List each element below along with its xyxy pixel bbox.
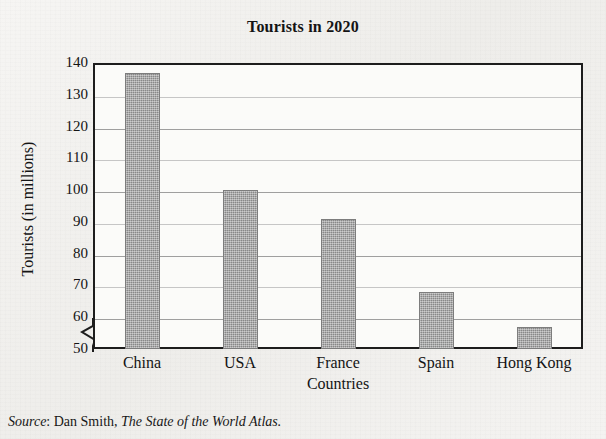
gridline-120 xyxy=(95,129,581,130)
gridline-60 xyxy=(95,319,581,320)
x-tick-label-hong-kong: Hong Kong xyxy=(485,354,583,372)
source-note: Source: Dan Smith, The State of the Worl… xyxy=(8,414,281,430)
y-tick-label-80: 80 xyxy=(52,246,88,261)
y-tick-label-110: 110 xyxy=(52,150,88,165)
gridline-130 xyxy=(95,97,581,98)
y-tick-label-70: 70 xyxy=(52,277,88,292)
gridline-70 xyxy=(95,287,581,288)
y-tick-label-140: 140 xyxy=(52,55,88,70)
x-axis-title: Countries xyxy=(93,375,583,393)
chart-title: Tourists in 2020 xyxy=(0,18,606,36)
x-axis-tick-labels: ChinaUSAFranceSpainHong Kong xyxy=(93,354,583,376)
x-tick-label-usa: USA xyxy=(191,354,289,372)
y-tick-label-120: 120 xyxy=(52,119,88,134)
gridline-100 xyxy=(95,192,581,193)
y-axis-tick-labels: 5060708090100110120130140 xyxy=(50,0,88,439)
source-author: Dan Smith, xyxy=(54,414,121,429)
y-axis-title: Tourists (in millions) xyxy=(19,94,37,324)
plot-area xyxy=(93,63,583,349)
gridline-110 xyxy=(95,160,581,161)
x-tick-label-france: France xyxy=(289,354,387,372)
x-tick-label-spain: Spain xyxy=(387,354,485,372)
source-separator: : xyxy=(46,414,53,429)
y-tick-label-90: 90 xyxy=(52,214,88,229)
source-work-title: The State of the World Atlas. xyxy=(121,414,281,429)
source-label: Source xyxy=(8,414,46,429)
bar-chart-figure: Tourists in 2020 Tourists (in millions) … xyxy=(0,0,606,439)
x-tick-label-china: China xyxy=(93,354,191,372)
y-tick-label-100: 100 xyxy=(52,182,88,197)
gridline-80 xyxy=(95,256,581,257)
gridline-90 xyxy=(95,224,581,225)
y-tick-label-130: 130 xyxy=(52,87,88,102)
